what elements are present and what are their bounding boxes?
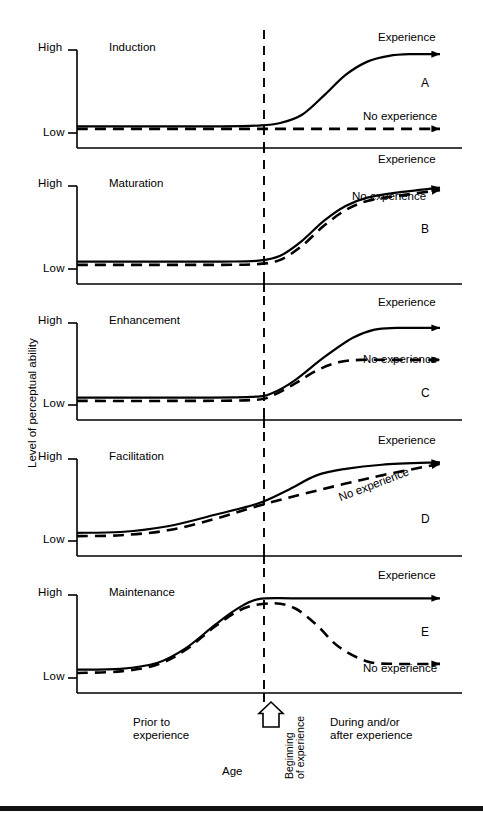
curve-a-experience <box>77 54 440 126</box>
curve-b-no-experience <box>77 190 440 265</box>
panel-d <box>68 459 462 556</box>
curve-d-no-experience <box>77 464 440 536</box>
curve-e-no-experience <box>77 603 440 673</box>
up-arrow-icon <box>259 702 283 727</box>
curve-e-experience <box>77 598 440 670</box>
panel-b <box>68 186 462 284</box>
chart-svg <box>0 0 483 820</box>
curve-c-experience <box>77 328 440 398</box>
curve-d-experience <box>77 462 440 533</box>
figure-container: Level of perceptual ability High Low Ind… <box>0 0 483 820</box>
panel-a <box>68 50 462 148</box>
bottom-rule <box>0 806 483 811</box>
panel-c <box>68 323 462 420</box>
curve-c-no-experience <box>77 360 440 401</box>
panel-e <box>68 595 462 693</box>
